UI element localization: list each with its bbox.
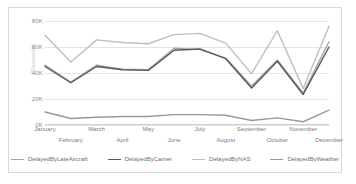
legend-color-swatch — [11, 159, 24, 160]
legend-label: DelayedByNAS — [209, 156, 250, 162]
legend-label: DelayedByCarrier — [125, 156, 172, 162]
legend-item[interactable]: DelayedByWeather — [270, 156, 339, 162]
chart-container: (Thousands) 0K20K40K60K80K JanuaryFebrua… — [8, 7, 342, 173]
legend-color-swatch — [108, 159, 121, 160]
y-axis-tick-label: 80K — [32, 18, 43, 24]
legend-color-swatch — [270, 159, 283, 160]
x-axis-tick-label: October — [267, 137, 288, 143]
y-axis-tick-label: 60K — [32, 44, 43, 50]
x-axis-tick-label: August — [216, 137, 235, 143]
legend-label: DelayedByWeather — [287, 156, 339, 162]
x-axis-tick-label: March — [88, 126, 105, 132]
x-axis-tick-label: May — [143, 126, 154, 132]
legend-item[interactable]: DelayedByCarrier — [108, 156, 172, 162]
x-axis-tick-label: September — [237, 126, 266, 132]
x-axis-tick-label: February — [59, 137, 83, 143]
x-axis-tick-label: December — [315, 137, 343, 143]
legend-item[interactable]: DelayedByLateAircraft — [11, 156, 88, 162]
x-axis-tick-label: April — [116, 137, 128, 143]
series-lines — [45, 21, 329, 125]
x-axis-tick-label: January — [34, 126, 55, 132]
x-axis-tick-label: November — [289, 126, 317, 132]
legend-label: DelayedByLateAircraft — [28, 156, 88, 162]
legend-color-swatch — [192, 159, 205, 160]
y-axis-tick-label: 20K — [32, 96, 43, 102]
legend-item[interactable]: DelayedByNAS — [192, 156, 250, 162]
x-axis-tick-label: June — [168, 137, 181, 143]
series-line — [45, 26, 329, 88]
plot-area — [45, 21, 329, 125]
y-axis-tick-labels: 0K20K40K60K80K — [17, 21, 43, 125]
x-axis-tick-label: July — [195, 126, 206, 132]
x-axis-tick-labels: JanuaryFebruaryMarchAprilMayJuneJulyAugu… — [45, 126, 329, 150]
chart-legend: DelayedByLateAircraftDelayedByCarrierDel… — [9, 152, 341, 166]
y-axis-tick-label: 40K — [32, 70, 43, 76]
series-line — [45, 110, 329, 122]
